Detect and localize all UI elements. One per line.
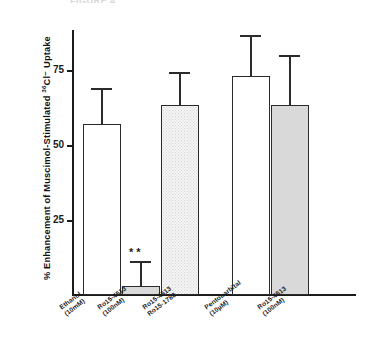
error-bar-stem-ethanol: [101, 88, 103, 125]
y-tick-mark-75: [67, 70, 72, 72]
y-tick-mark-50: [67, 145, 72, 147]
y-tick-label-50: 50: [38, 139, 64, 150]
y-axis-title: % Enhancement of Muscimol-Stimulated 36C…: [40, 8, 52, 308]
y-tick-mark-25: [67, 220, 72, 222]
y-axis-line: [72, 30, 74, 296]
cropped-figure-caption: FIGURE 4: [70, 0, 116, 3]
error-bar-cap-ro15-4513: [130, 261, 151, 263]
bar-chart-figure: FIGURE 4 % Enhancement of Muscimol-Stimu…: [0, 0, 374, 360]
x-axis-label-pentobarbital: Pentobarbital (10µM): [203, 279, 247, 317]
error-bar-stem-pentobarbital-ro15-4513: [289, 55, 291, 106]
bar-ro15-4513-ro15-1788: [161, 105, 199, 295]
bar-pentobarbital-ro15-4513: [271, 105, 309, 295]
error-bar-cap-pentobarbital-ro15-4513: [279, 55, 300, 57]
error-bar-stem-pentobarbital: [250, 35, 252, 77]
error-bar-stem-ro15-4513-ro15-1788: [179, 72, 181, 106]
y-axis-title-element: Cl: [42, 76, 52, 86]
y-axis-title-superscript: 36: [40, 85, 47, 92]
bar-ethanol: [83, 124, 121, 295]
y-tick-label-25: 25: [38, 214, 64, 225]
error-bar-stem-ro15-4513: [140, 261, 142, 287]
error-bar-cap-pentobarbital: [240, 35, 261, 37]
y-tick-label-75: 75: [38, 64, 64, 75]
error-bar-cap-ro15-4513-ro15-1788: [169, 72, 190, 74]
y-axis-title-main: % Enhancement of Muscimol-Stimulated: [42, 93, 52, 280]
significance-asterisks: **: [129, 247, 144, 257]
bar-pentobarbital: [232, 76, 270, 295]
error-bar-cap-ethanol: [91, 88, 112, 90]
